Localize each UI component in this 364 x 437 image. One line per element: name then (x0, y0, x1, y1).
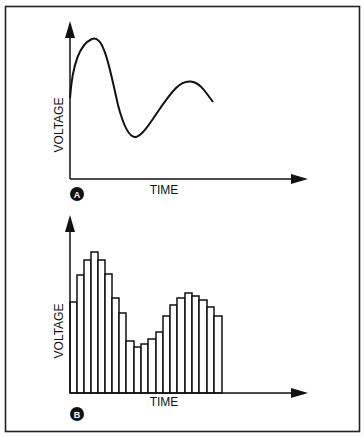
sample-bar (91, 252, 98, 393)
sample-bar (192, 296, 199, 393)
sample-bar (163, 316, 170, 393)
sample-bar (126, 341, 134, 393)
sample-bar (84, 260, 91, 393)
sample-bar (134, 347, 141, 393)
voltage-time-figure: VOLTAGE TIME A VOLTAGE TIME B (0, 0, 364, 437)
sample-bar (112, 298, 119, 393)
sample-bar (170, 305, 177, 393)
sample-bar (156, 332, 163, 393)
sample-bar (207, 307, 214, 393)
panel-b-y-arrow-icon (65, 215, 75, 232)
panel-a: VOLTAGE TIME A (52, 21, 308, 201)
sample-bar (70, 302, 77, 393)
sample-bar (98, 260, 105, 393)
panel-a-waveform (70, 39, 213, 138)
panel-b: VOLTAGE TIME B (52, 215, 308, 421)
sample-bar (105, 274, 112, 393)
sample-bar (199, 300, 207, 393)
panel-b-bars (70, 252, 222, 393)
panel-a-badge-label: A (74, 190, 81, 200)
panel-b-ylabel: VOLTAGE (52, 304, 66, 359)
sample-bar (177, 298, 185, 393)
sample-bar (119, 313, 126, 393)
panel-b-badge-label: B (74, 410, 81, 420)
panel-a-ylabel: VOLTAGE (52, 98, 66, 153)
panel-a-y-arrow-icon (65, 21, 75, 38)
sample-bar (185, 293, 192, 393)
panel-b-x-arrow-icon (291, 388, 308, 398)
sample-bar (214, 316, 222, 393)
sample-bar (77, 275, 84, 393)
panel-a-xlabel: TIME (150, 183, 179, 197)
panel-b-xlabel: TIME (150, 395, 179, 409)
sample-bar (148, 339, 156, 393)
sample-bar (141, 344, 148, 393)
panel-a-x-arrow-icon (291, 174, 308, 184)
